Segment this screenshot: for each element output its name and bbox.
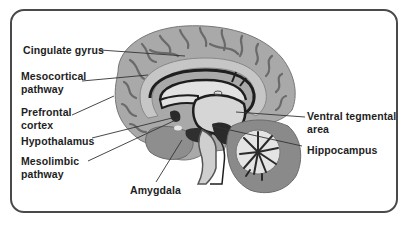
label-mesocortical-pathway: Mesocortical pathway bbox=[21, 70, 91, 96]
label-hypothalamus: Hypothalamus bbox=[21, 135, 95, 148]
label-amygdala: Amygdala bbox=[130, 184, 181, 197]
label-prefrontal-cortex: Prefrontal cortex bbox=[21, 106, 81, 132]
label-hippocampus: Hippocampus bbox=[307, 144, 378, 157]
label-mesolimbic-pathway: Mesolimbic pathway bbox=[21, 155, 81, 181]
label-cingulate-gyrus: Cingulate gyrus bbox=[23, 44, 104, 57]
label-ventral-tegmental-area: Ventral tegmental area bbox=[307, 110, 397, 136]
